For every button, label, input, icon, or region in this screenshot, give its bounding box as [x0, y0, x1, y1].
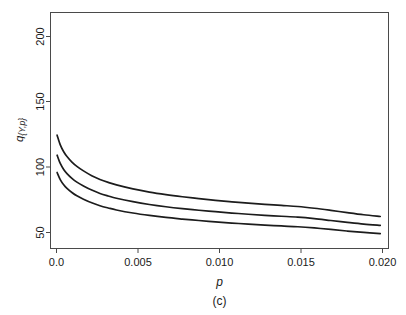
y-axis-tick-labels: 200 150 100 50 — [34, 27, 46, 238]
x-tick-label-0005: 0.005 — [124, 256, 152, 268]
data-curves — [57, 135, 380, 233]
plot-frame — [51, 13, 389, 249]
x-axis-ticks — [57, 249, 383, 254]
figure-panel: 200 150 100 50 q{Y,p} 0.0 0.005 0.010 0.… — [0, 0, 406, 315]
y-axis-title: q{Y,p} — [13, 118, 27, 142]
y-tick-label-200: 200 — [34, 27, 46, 45]
x-axis-title: p — [215, 275, 223, 289]
y-axis-title-group: q{Y,p} — [13, 118, 27, 142]
x-tick-label-0010: 0.010 — [206, 256, 234, 268]
y-tick-label-50: 50 — [34, 226, 46, 238]
y-axis-ticks — [46, 37, 51, 233]
y-tick-label-100: 100 — [34, 158, 46, 176]
x-tick-label-0: 0.0 — [49, 256, 64, 268]
chart-svg: 200 150 100 50 q{Y,p} 0.0 0.005 0.010 0.… — [0, 0, 406, 315]
curve-middle — [57, 155, 380, 225]
y-tick-label-150: 150 — [34, 92, 46, 110]
curve-upper — [57, 135, 380, 216]
x-tick-label-0020: 0.020 — [369, 256, 397, 268]
x-axis-tick-labels: 0.0 0.005 0.010 0.015 0.020 — [49, 256, 396, 268]
y-axis-title-subscript: {Y,p} — [17, 118, 27, 136]
panel-caption: (c) — [213, 294, 227, 308]
x-tick-label-0015: 0.015 — [287, 256, 315, 268]
